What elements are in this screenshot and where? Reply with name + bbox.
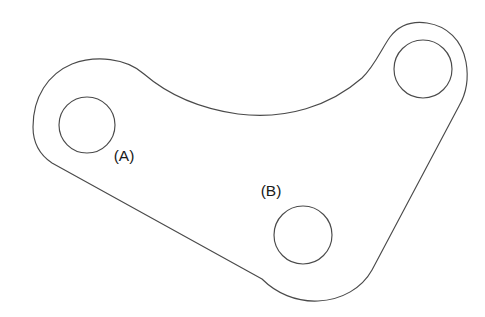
bracket-plate-diagram: (A) (B) (0, 0, 485, 317)
hole-a-circle (59, 97, 115, 153)
hole-b-label: (B) (261, 182, 282, 199)
hole-a-label: (A) (114, 147, 135, 164)
drawing-canvas: (A) (B) (0, 0, 485, 317)
hole-b-circle (274, 206, 332, 264)
hole-top-right-circle (394, 40, 452, 98)
